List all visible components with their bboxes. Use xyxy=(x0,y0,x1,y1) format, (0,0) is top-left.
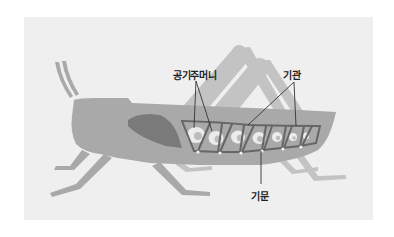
grasshopper-diagram xyxy=(0,0,394,237)
spiracle xyxy=(281,147,284,150)
spiracle xyxy=(218,151,221,154)
spiracle xyxy=(196,150,199,153)
label-air-sacs: 공기주머니 xyxy=(173,67,217,82)
spiracle xyxy=(239,151,242,154)
spiracle xyxy=(299,145,302,148)
label-spiracle: 기문 xyxy=(251,188,268,203)
label-trachea: 기관 xyxy=(283,67,300,82)
